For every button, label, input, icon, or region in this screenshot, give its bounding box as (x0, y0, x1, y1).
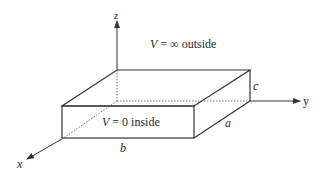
infinite-box-diagram: z y x a b c V = ∞ outside V = 0 inside (0, 0, 325, 175)
z-axis-label: z (113, 9, 119, 21)
x-axis (27, 139, 62, 159)
inside-potential-label: V = 0 inside (102, 115, 160, 129)
dimension-b-label: b (120, 141, 126, 155)
dimension-a-label: a (225, 116, 231, 130)
dimension-c-label: c (253, 79, 259, 93)
outside-potential-label: V = ∞ outside (150, 37, 216, 51)
box-right-bottom-edge (194, 101, 250, 138)
y-axis-label: y (303, 94, 309, 108)
x-axis-label: x (16, 157, 23, 171)
